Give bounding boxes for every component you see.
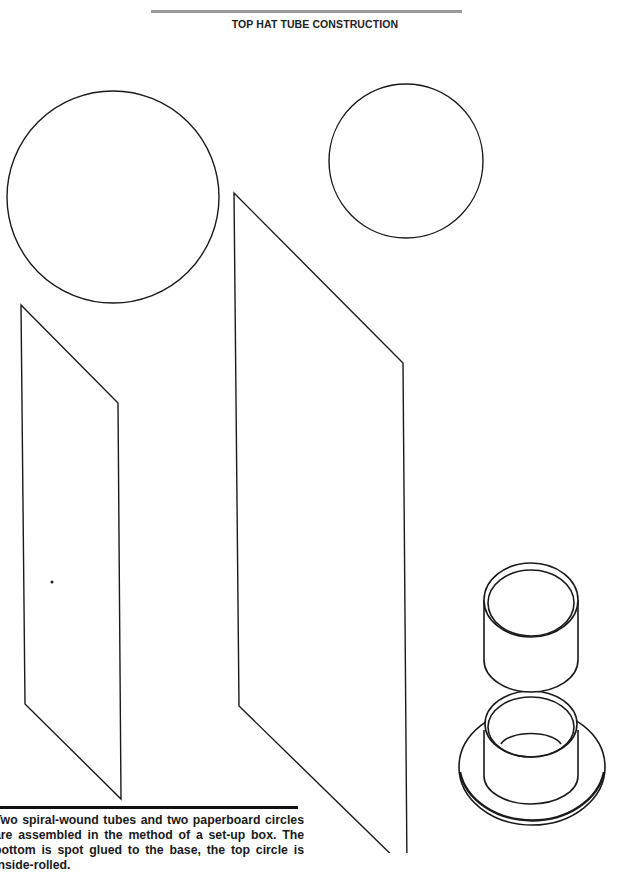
caption-rule xyxy=(0,806,298,809)
narrow-tube-blank xyxy=(21,305,121,799)
caption-text: Two spiral-wound tubes and two paperboar… xyxy=(0,813,304,873)
assembled-top-hat xyxy=(459,563,605,825)
wide-tube-blank xyxy=(234,193,407,853)
large-circle xyxy=(7,91,219,303)
small-circle xyxy=(329,84,483,238)
mark-dot xyxy=(51,581,54,584)
